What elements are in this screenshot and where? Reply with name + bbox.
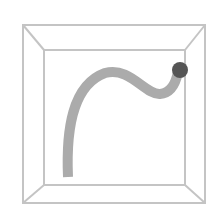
sphere-ball	[172, 62, 188, 78]
edge-bottom-right	[185, 185, 205, 203]
curved-tube	[68, 72, 178, 177]
edge-top-left	[23, 25, 44, 50]
edge-bottom-left	[23, 185, 44, 203]
scene	[0, 0, 219, 214]
outer-frame	[23, 25, 205, 203]
edge-top-right	[185, 25, 205, 50]
perspective-box	[23, 25, 205, 203]
box-with-tube-diagram	[0, 0, 219, 214]
